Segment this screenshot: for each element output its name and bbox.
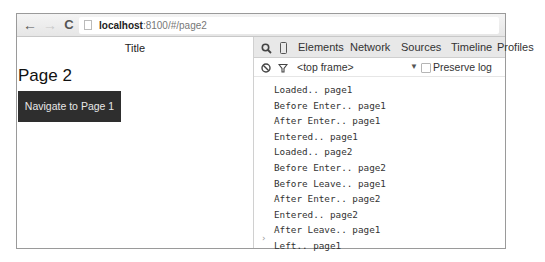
- page-heading: Page 2: [18, 66, 72, 86]
- console-message: After Leave.. page1: [274, 222, 386, 238]
- browser-window: ← → C localhost:8100/#/page2 Title Page …: [16, 13, 506, 249]
- console-message: After Enter.. page1: [274, 113, 386, 129]
- console-message: Before Enter.. page2: [274, 160, 386, 176]
- console-message: Left.. page1: [274, 238, 386, 254]
- filter-icon[interactable]: [277, 58, 289, 76]
- console-message: Entered.. page2: [274, 207, 386, 223]
- tab-sources[interactable]: Sources: [401, 37, 441, 57]
- tab-network[interactable]: Network: [350, 37, 390, 57]
- frame-dropdown-arrow-icon[interactable]: ▼: [410, 58, 418, 76]
- devtools-panel: Elements Network Sources Timeline Profil…: [253, 37, 505, 248]
- page-icon: [84, 20, 92, 30]
- browser-toolbar: ← → C localhost:8100/#/page2: [17, 14, 505, 37]
- console-message: Loaded.. page2: [274, 144, 386, 160]
- reload-icon[interactable]: C: [61, 16, 77, 34]
- navigate-to-page1-button[interactable]: Navigate to Page 1: [18, 91, 121, 122]
- console-message: Before Enter.. page1: [274, 98, 386, 114]
- console-message: Loaded.. page1: [274, 82, 386, 98]
- forward-arrow-icon[interactable]: →: [42, 16, 58, 34]
- console-toolbar: <top frame> ▼ Preserve log: [254, 58, 505, 77]
- page-viewport: Title Page 2 Navigate to Page 1: [17, 37, 253, 248]
- tab-profiles[interactable]: Profiles: [497, 37, 534, 57]
- nav-bar-title: Title: [17, 42, 253, 54]
- back-arrow-icon[interactable]: ←: [22, 16, 38, 34]
- search-icon[interactable]: [260, 37, 272, 57]
- devtools-tab-bar: Elements Network Sources Timeline Profil…: [254, 37, 505, 58]
- address-bar[interactable]: localhost:8100/#/page2: [79, 17, 499, 34]
- frame-selector[interactable]: <top frame>: [297, 58, 354, 76]
- console-prompt[interactable]: ›: [261, 233, 266, 243]
- console-message: After Enter.. page2: [274, 191, 386, 207]
- preserve-log-label[interactable]: Preserve log: [433, 58, 492, 76]
- preserve-log-checkbox[interactable]: [421, 63, 431, 73]
- tab-timeline[interactable]: Timeline: [451, 37, 492, 57]
- url-host: localhost: [99, 20, 143, 31]
- url-path: :8100/#/page2: [143, 20, 207, 31]
- console-message: Before Leave.. page1: [274, 176, 386, 192]
- clear-console-icon[interactable]: [260, 58, 272, 76]
- url-text: localhost:8100/#/page2: [99, 18, 207, 33]
- console-message: Entered.. page1: [274, 129, 386, 145]
- console-log: Loaded.. page1 Before Enter.. page1 Afte…: [274, 82, 386, 254]
- tab-elements[interactable]: Elements: [298, 37, 344, 57]
- device-mode-icon[interactable]: [278, 37, 288, 57]
